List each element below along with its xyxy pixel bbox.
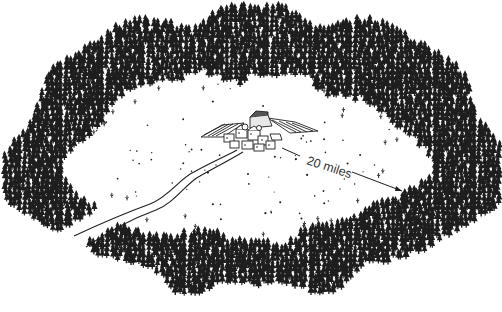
village-icon [201,111,318,151]
distance-marker: 20 miles [282,148,402,191]
distance-label: 20 miles [305,154,354,182]
forest-village-illustration: 20 miles [0,0,502,312]
